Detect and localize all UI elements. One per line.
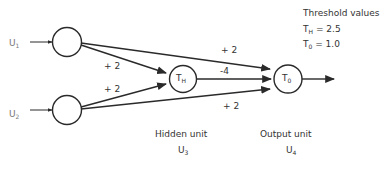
weight-u1-hidden: + 2 (104, 61, 120, 71)
input-node-u2 (53, 96, 82, 125)
threshold-title: Threshold values (303, 8, 380, 18)
weight-hidden-output: -4 (220, 66, 229, 76)
weight-u2-output: + 2 (223, 101, 239, 111)
hidden-node-symbol: TH (176, 73, 186, 84)
threshold-hidden: TH = 2.5 (303, 24, 341, 37)
edge-u2-hidden (81, 84, 166, 107)
threshold-output: T0 = 1.0 (303, 39, 340, 52)
input-label-u1: U1 (9, 38, 19, 51)
hidden-unit-caption: Hidden unit (155, 129, 207, 139)
output-node-symbol: T0 (282, 73, 291, 84)
input-node-u1 (53, 28, 82, 57)
input-label-u2: U2 (9, 109, 19, 122)
output-unit-caption: Output unit (260, 129, 312, 139)
output-unit-name: U4 (286, 145, 296, 158)
hidden-unit-name: U3 (178, 145, 188, 158)
weight-u2-hidden: + 2 (104, 84, 120, 94)
weight-u1-output: + 2 (221, 45, 237, 55)
